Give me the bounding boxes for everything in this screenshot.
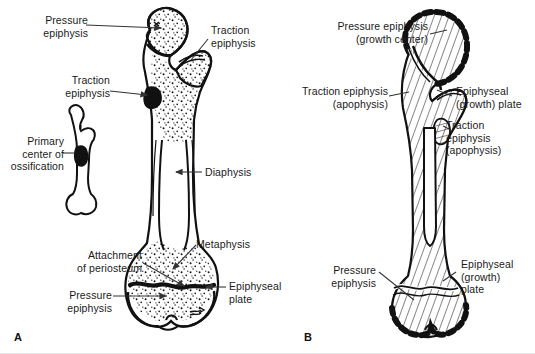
epiphyseal-plate-proximal-b-2 bbox=[409, 49, 430, 82]
label-epiphyseal-growth-plate-proximal: Epiphyseal (growth) plate bbox=[456, 85, 535, 110]
fetal-bone-outline bbox=[66, 105, 96, 214]
distal-condyles-rim-b bbox=[392, 305, 466, 335]
label-pressure-epiphysis-distal-b: Pressure epiphysis bbox=[300, 264, 376, 289]
leader-attachment-periosteum bbox=[143, 263, 184, 286]
label-traction-epiphysis-apophysis-upper: Traction epiphysis (apophysis) bbox=[272, 85, 388, 110]
label-attachment-of-periosteum: Attachment of periosteum bbox=[22, 249, 142, 274]
label-epiphyseal-plate-a: Epiphyseal plate bbox=[229, 280, 299, 305]
panel-letter-a: A bbox=[14, 331, 22, 343]
femoral-head-pressure-epiphysis bbox=[147, 8, 188, 56]
inner-cortex-lines-a bbox=[153, 140, 195, 216]
label-pressure-epiphysis-growth-center: Pressure epiphysis (growth center) bbox=[283, 20, 428, 45]
leader-epiphyseal-growth-plate-proximal bbox=[437, 90, 452, 96]
label-primary-center-of-ossification: Primary center of ossification bbox=[0, 135, 64, 173]
leader-traction-epiphysis-apophysis-upper bbox=[389, 92, 409, 96]
leader-epiphyseal-growth-plate-distal bbox=[443, 272, 456, 281]
intercondylar-notch-a bbox=[166, 316, 177, 321]
label-pressure-epiphysis-proximal: Pressure epiphysis bbox=[0, 14, 88, 39]
lesser-trochanter-traction-epiphysis bbox=[144, 87, 161, 108]
intercondylar-notch-b bbox=[425, 325, 437, 330]
label-epiphyseal-growth-plate-distal: Epiphyseal (growth) plate bbox=[461, 258, 531, 296]
epiphyseal-plate-proximal-b-3 bbox=[409, 49, 430, 82]
epiphyseal-plate-distal-b-line2 bbox=[393, 293, 459, 297]
medullary-cavity-a bbox=[159, 140, 189, 250]
fovea-mark bbox=[154, 22, 159, 26]
distal-condyles-a bbox=[128, 291, 214, 327]
leader-traction-epiphysis-greater bbox=[191, 39, 208, 60]
leader-pressure-epiphysis-proximal bbox=[86, 25, 161, 28]
epiphyseal-plate-distal-b-line bbox=[394, 286, 458, 290]
label-metaphysis: Metaphysis bbox=[196, 238, 276, 251]
label-traction-epiphysis-apophysis-lower: Traction epiphysis (apophysis) bbox=[446, 119, 526, 157]
label-traction-epiphysis-lesser-trochanter: Traction epiphysis bbox=[25, 74, 110, 99]
panel-b-femur bbox=[379, 12, 467, 337]
anatomy-figure: Pressure epiphysis Traction epiphysis Tr… bbox=[0, 0, 535, 354]
proximal-cancellous-bone bbox=[151, 48, 199, 142]
leader-traction-epiphysis-lesser bbox=[110, 91, 147, 95]
leader-pressure-epiphysis-growth-center bbox=[430, 30, 447, 34]
periosteum-squiggle-a bbox=[190, 307, 204, 315]
medullary-cavity-b bbox=[424, 128, 436, 246]
epiphyseal-plate-distal-a bbox=[130, 283, 214, 287]
inset-fetal-bone bbox=[66, 105, 96, 214]
label-pressure-epiphysis-distal-a: Pressure epiphysis bbox=[38, 289, 112, 314]
epiphyseal-plate-proximal-b bbox=[413, 46, 441, 90]
panel-letter-b: B bbox=[304, 331, 312, 343]
leader-lines-b bbox=[379, 30, 456, 300]
panel-a-femur bbox=[63, 8, 226, 330]
femur-body-hatched-b bbox=[392, 12, 467, 337]
primary-ossification-center bbox=[75, 146, 88, 166]
greater-trochanter-plate bbox=[179, 55, 205, 66]
epiphyseal-plate-head-a bbox=[147, 44, 171, 55]
leader-metaphysis bbox=[173, 245, 196, 269]
epiphyseal-plate-distal-b bbox=[394, 286, 458, 290]
label-diaphysis: Diaphysis bbox=[205, 166, 285, 179]
greater-trochanter-traction-epiphysis bbox=[176, 51, 211, 86]
leader-pressure-epiphysis-distal-b bbox=[379, 272, 414, 300]
